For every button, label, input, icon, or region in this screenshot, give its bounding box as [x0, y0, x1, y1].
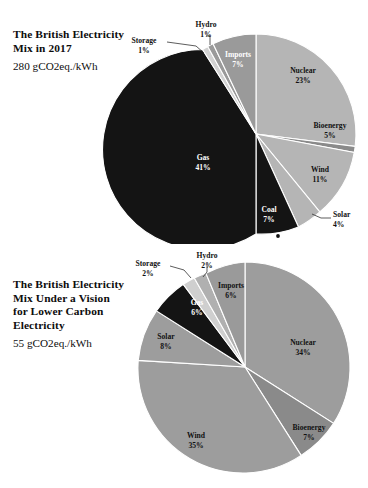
label-v-storage-pct: 2% [142, 269, 153, 278]
label-storage-pct: 1% [138, 46, 149, 55]
label-v-storage-name: Storage [136, 259, 162, 268]
label-gas-pct: 41% [195, 163, 210, 172]
label-v-wind-pct: 35% [188, 441, 203, 450]
label-imports-name: Imports [225, 50, 251, 59]
label-nuclear-pct: 23% [295, 76, 310, 85]
label-v-gas-pct: 6% [191, 308, 202, 317]
label-wind-pct: 11% [313, 175, 328, 184]
label-wind-name: Wind [311, 165, 330, 174]
label-v-bioenergy-name: Bioenergy [293, 423, 326, 432]
label-imports-pct: 7% [232, 60, 243, 69]
label-v-bioenergy-pct: 7% [303, 433, 314, 442]
label-v-hydro-name: Hydro [197, 251, 218, 260]
label-v-solar-pct: 8% [160, 342, 171, 351]
pie-chart-2017: Nuclear 23% Bioenergy 5% Wind 11% Solar … [0, 0, 368, 244]
label-v-imports-name: Imports [218, 281, 244, 290]
label-v-nuclear-pct: 34% [295, 348, 310, 357]
label-hydro-name: Hydro [196, 20, 217, 29]
leader-line-v-storage [170, 266, 191, 278]
label-v-wind-name: Wind [187, 431, 206, 440]
label-hydro-pct: 1% [200, 30, 211, 39]
pie-chart-vision: Nuclear 34% Bioenergy 7% Wind 35% Solar … [0, 244, 368, 488]
label-bioenergy-pct: 5% [324, 131, 335, 140]
label-v-gas-name: Gas [191, 298, 204, 307]
label-solar-name: Solar [333, 210, 351, 219]
chart-marker-dot [276, 234, 280, 238]
label-v-solar-name: Solar [157, 332, 175, 341]
label-v-nuclear-name: Nuclear [290, 338, 316, 347]
label-nuclear-name: Nuclear [290, 66, 316, 75]
label-bioenergy-name: Bioenergy [314, 121, 347, 130]
label-storage-name: Storage [132, 36, 158, 45]
label-coal-pct: 7% [263, 215, 274, 224]
label-v-hydro-pct: 2% [201, 261, 212, 270]
label-coal-name: Coal [261, 205, 276, 214]
label-solar-pct: 4% [333, 220, 344, 229]
label-v-imports-pct: 6% [225, 291, 236, 300]
chart-panel-vision: The British Electricity Mix Under a Visi… [0, 244, 368, 488]
chart-panel-2017: The British Electricity Mix in 2017 280 … [0, 0, 368, 244]
label-gas-name: Gas [197, 153, 210, 162]
